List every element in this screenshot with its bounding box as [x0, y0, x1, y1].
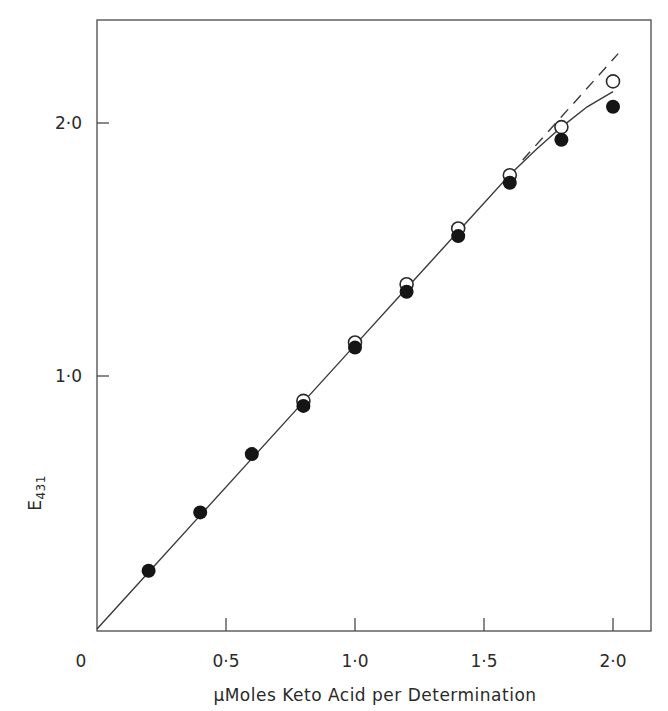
- open-circle-marker: [555, 121, 568, 134]
- fit-line: [97, 92, 613, 629]
- plot-frame: [97, 20, 651, 631]
- filled-circle-marker: [554, 133, 568, 147]
- filled-circle-marker: [296, 399, 310, 413]
- x-tick-label-2.0: 2·0: [599, 651, 626, 671]
- origin-label: 0: [76, 651, 87, 671]
- filled-circle-marker: [606, 100, 620, 114]
- filled-circle-marker: [142, 564, 156, 578]
- x-tick-label-1.0: 1·0: [341, 651, 368, 671]
- chart: 2·0 1·0 0 0·5 1·0 1·5 2·0 µMoles Keto Ac…: [0, 0, 668, 711]
- x-tick-label-0.5: 0·5: [212, 651, 239, 671]
- filled-circle-marker: [348, 341, 362, 355]
- extrapolation-line: [523, 54, 619, 160]
- y-tick-label-1: 1·0: [55, 366, 82, 386]
- x-axis: [226, 618, 613, 631]
- filled-circle-marker: [451, 229, 465, 243]
- x-axis-label: µMoles Keto Acid per Determination: [213, 685, 536, 705]
- y-axis-label-subscript: 431: [34, 475, 48, 499]
- open-circle-marker: [607, 75, 620, 88]
- svg-text:E431: E431: [25, 475, 48, 511]
- filled-circle-marker: [503, 176, 517, 190]
- y-tick-label-2: 2·0: [55, 113, 82, 133]
- filled-circle-marker: [400, 285, 414, 299]
- y-axis-label-main: E: [25, 500, 45, 511]
- data-markers: [142, 75, 620, 578]
- filled-circle-marker: [193, 505, 207, 519]
- y-axis-label: E431: [25, 475, 48, 511]
- x-tick-label-1.5: 1·5: [470, 651, 497, 671]
- y-axis: [97, 123, 109, 376]
- filled-circle-marker: [245, 447, 259, 461]
